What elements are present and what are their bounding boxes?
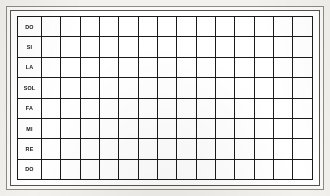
note-cell-empty[interactable]: [119, 98, 138, 118]
note-cell-empty[interactable]: [80, 98, 99, 118]
note-cell-empty[interactable]: [216, 78, 235, 98]
note-cell-empty[interactable]: [119, 57, 138, 77]
note-cell-empty[interactable]: [293, 57, 313, 77]
note-cell-empty[interactable]: [196, 139, 215, 159]
note-cell-empty[interactable]: [235, 78, 254, 98]
note-cell-empty[interactable]: [235, 98, 254, 118]
note-cell-empty[interactable]: [235, 139, 254, 159]
note-cell-empty[interactable]: [42, 78, 61, 98]
note-cell-empty[interactable]: [254, 98, 273, 118]
note-cell-empty[interactable]: [80, 37, 99, 57]
note-cell-empty[interactable]: [80, 78, 99, 98]
note-cell-empty[interactable]: [80, 57, 99, 77]
note-cell-empty[interactable]: [138, 118, 157, 138]
note-cell-empty[interactable]: [196, 78, 215, 98]
note-cell-empty[interactable]: [293, 118, 313, 138]
note-cell-empty[interactable]: [138, 57, 157, 77]
note-cell-empty[interactable]: [100, 98, 119, 118]
note-cell-empty[interactable]: [61, 98, 80, 118]
note-cell-empty[interactable]: [158, 98, 177, 118]
note-cell-empty[interactable]: [119, 17, 138, 37]
note-cell-empty[interactable]: [216, 98, 235, 118]
note-cell-filled[interactable]: [61, 17, 80, 37]
note-cell-empty[interactable]: [254, 159, 273, 179]
note-cell-empty[interactable]: [42, 159, 61, 179]
note-cell-empty[interactable]: [61, 159, 80, 179]
note-cell-filled[interactable]: [80, 17, 99, 37]
note-cell-filled[interactable]: [177, 57, 196, 77]
note-cell-empty[interactable]: [100, 17, 119, 37]
note-cell-filled[interactable]: [42, 57, 61, 77]
note-cell-empty[interactable]: [138, 98, 157, 118]
note-cell-empty[interactable]: [119, 118, 138, 138]
note-cell-empty[interactable]: [196, 57, 215, 77]
note-cell-filled[interactable]: [100, 57, 119, 77]
note-cell-empty[interactable]: [274, 98, 293, 118]
note-cell-empty[interactable]: [293, 159, 313, 179]
note-cell-filled[interactable]: [138, 17, 157, 37]
note-cell-empty[interactable]: [196, 98, 215, 118]
note-cell-empty[interactable]: [158, 37, 177, 57]
note-cell-empty[interactable]: [158, 139, 177, 159]
note-cell-empty[interactable]: [61, 139, 80, 159]
note-cell-empty[interactable]: [42, 37, 61, 57]
note-cell-empty[interactable]: [61, 118, 80, 138]
note-cell-empty[interactable]: [42, 139, 61, 159]
note-cell-empty[interactable]: [216, 139, 235, 159]
note-cell-empty[interactable]: [274, 17, 293, 37]
note-cell-empty[interactable]: [235, 57, 254, 77]
note-cell-empty[interactable]: [177, 98, 196, 118]
note-cell-empty[interactable]: [293, 98, 313, 118]
note-cell-empty[interactable]: [61, 37, 80, 57]
note-cell-empty[interactable]: [177, 37, 196, 57]
note-cell-empty[interactable]: [138, 37, 157, 57]
note-cell-filled[interactable]: [274, 37, 293, 57]
note-cell-empty[interactable]: [293, 139, 313, 159]
note-cell-empty[interactable]: [80, 118, 99, 138]
note-cell-filled[interactable]: [293, 17, 313, 37]
note-cell-empty[interactable]: [80, 159, 99, 179]
note-cell-empty[interactable]: [274, 159, 293, 179]
note-cell-empty[interactable]: [138, 159, 157, 179]
note-cell-empty[interactable]: [177, 139, 196, 159]
note-cell-empty[interactable]: [158, 57, 177, 77]
note-cell-empty[interactable]: [100, 159, 119, 179]
note-cell-empty[interactable]: [119, 159, 138, 179]
note-cell-empty[interactable]: [119, 139, 138, 159]
note-cell-empty[interactable]: [274, 78, 293, 98]
note-cell-filled[interactable]: [158, 17, 177, 37]
note-cell-empty[interactable]: [254, 37, 273, 57]
note-cell-empty[interactable]: [216, 159, 235, 179]
note-cell-empty[interactable]: [196, 159, 215, 179]
note-cell-empty[interactable]: [216, 57, 235, 77]
note-cell-empty[interactable]: [177, 159, 196, 179]
note-cell-empty[interactable]: [100, 78, 119, 98]
note-cell-empty[interactable]: [216, 118, 235, 138]
note-cell-empty[interactable]: [138, 139, 157, 159]
note-cell-empty[interactable]: [235, 118, 254, 138]
note-cell-empty[interactable]: [293, 78, 313, 98]
note-cell-empty[interactable]: [235, 159, 254, 179]
note-cell-empty[interactable]: [158, 78, 177, 98]
note-cell-empty[interactable]: [196, 17, 215, 37]
note-cell-filled[interactable]: [235, 17, 254, 37]
note-cell-empty[interactable]: [177, 78, 196, 98]
note-cell-empty[interactable]: [274, 118, 293, 138]
note-cell-empty[interactable]: [254, 118, 273, 138]
note-cell-empty[interactable]: [293, 37, 313, 57]
note-cell-filled[interactable]: [216, 17, 235, 37]
note-cell-filled[interactable]: [119, 37, 138, 57]
note-cell-empty[interactable]: [274, 57, 293, 77]
note-cell-filled[interactable]: [196, 37, 215, 57]
note-cell-empty[interactable]: [100, 118, 119, 138]
note-cell-empty[interactable]: [61, 78, 80, 98]
note-cell-empty[interactable]: [158, 118, 177, 138]
note-cell-empty[interactable]: [216, 37, 235, 57]
note-cell-empty[interactable]: [42, 17, 61, 37]
note-cell-empty[interactable]: [100, 37, 119, 57]
note-cell-empty[interactable]: [138, 78, 157, 98]
note-cell-empty[interactable]: [274, 139, 293, 159]
note-cell-empty[interactable]: [254, 78, 273, 98]
note-cell-empty[interactable]: [196, 118, 215, 138]
note-cell-empty[interactable]: [177, 17, 196, 37]
